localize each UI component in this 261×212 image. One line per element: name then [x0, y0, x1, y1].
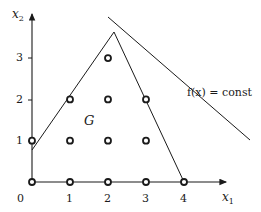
lattice-point [105, 55, 111, 61]
y-axis-label: x2 [12, 8, 24, 23]
x-tick-label-2: 2 [104, 193, 111, 204]
y-tick-label-3: 3 [16, 52, 23, 63]
x-tick-label-1: 1 [66, 193, 73, 204]
x-tick-label-0: 0 [17, 193, 24, 204]
lattice-point [105, 138, 111, 144]
lattice-point [29, 138, 35, 144]
lattice-point [143, 138, 149, 144]
lattice-point [181, 179, 187, 185]
lattice-point [105, 179, 111, 185]
lattice-point [143, 179, 149, 185]
region-label: G [84, 114, 94, 127]
objective-level-line [108, 17, 250, 140]
x-tick-label-4: 4 [180, 193, 187, 204]
x-tick-label-3: 3 [142, 193, 149, 204]
lattice-point [29, 179, 35, 185]
lattice-point [67, 138, 73, 144]
lattice-point [143, 96, 149, 102]
lattice-point [67, 96, 73, 102]
lattice-point [67, 179, 73, 185]
lattice-point [105, 96, 111, 102]
y-tick-label-1: 1 [16, 135, 23, 146]
objective-label: f(x) = const [187, 87, 252, 98]
y-tick-label-2: 2 [16, 94, 23, 105]
feasible-region-diagram [0, 0, 261, 212]
y-ticks [28, 58, 32, 141]
x-axis-label: x1 [222, 191, 234, 206]
